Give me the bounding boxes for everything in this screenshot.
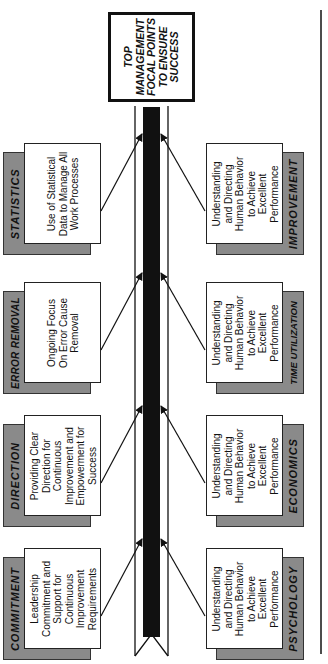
- label-improvement: IMPROVEMENT: [287, 158, 299, 249]
- arrow-statistics: [101, 134, 142, 211]
- arrow-direction: [101, 406, 142, 483]
- cause-box-commitment: Leadership Commitment and Support for Co…: [24, 548, 101, 649]
- cause-box-direction: Providing Clear Direction for Continuous…: [24, 415, 101, 516]
- cause-box-statistics: Use of Statistical Data to Manage All Wo…: [24, 143, 101, 244]
- head-box: TOP MANAGEMENT FOCAL POINTS TO ENSURE SU…: [108, 12, 195, 102]
- cause-text-psychology: Understanding and Directing Human Behavi…: [210, 561, 279, 635]
- label-direction: DIRECTION: [9, 442, 21, 510]
- cause-text-economics: Understanding and Directing Human Behavi…: [210, 428, 279, 502]
- cause-text-commitment: Leadership Commitment and Support for Co…: [28, 560, 97, 636]
- label-economics: ECONOMICS: [287, 438, 299, 513]
- label-error-removal: ERROR REMOVAL: [9, 296, 20, 388]
- arrow-commitment: [101, 539, 142, 616]
- label-time-utilization: TIME UTILIZATION: [287, 301, 298, 385]
- cause-box-psychology: Understanding and Directing Human Behavi…: [206, 548, 283, 649]
- label-commitment: COMMITMENT: [9, 567, 21, 651]
- cause-text-time-utilization: Understanding and Directing Human Behavi…: [210, 295, 279, 369]
- cause-text-direction: Providing Clear Direction for Continuous…: [28, 426, 97, 505]
- label-psychology: PSYCHOLOGY: [287, 566, 299, 652]
- label-statistics: STATISTICS: [9, 168, 21, 239]
- arrow-error-removal: [101, 273, 142, 350]
- cause-box-time-utilization: Understanding and Directing Human Behavi…: [206, 282, 283, 383]
- head-text: TOP MANAGEMENT FOCAL POINTS TO ENSURE SU…: [123, 18, 181, 96]
- cause-box-error-removal: Ongoing Focus On Error Cause Removal: [24, 282, 101, 383]
- cause-box-economics: Understanding and Directing Human Behavi…: [206, 415, 283, 516]
- spine: [135, 106, 168, 656]
- cause-text-statistics: Use of Statistical Data to Manage All Wo…: [45, 151, 80, 236]
- cause-text-error-removal: Ongoing Focus On Error Cause Removal: [45, 297, 80, 367]
- cause-box-improvement: Understanding and Directing Human Behavi…: [206, 143, 283, 244]
- cause-text-improvement: Understanding and Directing Human Behavi…: [210, 156, 279, 230]
